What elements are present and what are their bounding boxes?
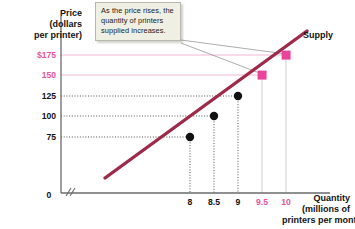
annotation-callout-text: As the price rises, the quantity of prin…	[101, 6, 174, 35]
origin-label: 0	[40, 190, 58, 200]
annotation-callout: As the price rises, the quantity of prin…	[95, 2, 181, 41]
y-axis-title-line-2: (dollars	[8, 19, 82, 30]
y-axis-title-line-1: Price	[8, 8, 82, 19]
y-tick-label-125: 125	[16, 91, 56, 101]
supply-curve-figure: As the price rises, the quantity of prin…	[0, 0, 355, 229]
x-axis-title-line-3: printers per month)	[282, 215, 350, 226]
y-tick-label-175: $175	[16, 50, 56, 60]
axis-break-mark	[66, 188, 75, 196]
y-tick-label-150: 150	[16, 70, 56, 80]
y-tick-label-100: 100	[16, 111, 56, 121]
y-axis-title: Price (dollars per printer)	[8, 8, 82, 41]
y-axis-title-line-3: per printer)	[8, 30, 82, 41]
x-tick-label-10: 10	[272, 197, 300, 207]
supply-curve	[105, 31, 307, 178]
y-tick-label-75: 75	[16, 132, 56, 142]
series-label-supply: Supply	[303, 30, 333, 40]
